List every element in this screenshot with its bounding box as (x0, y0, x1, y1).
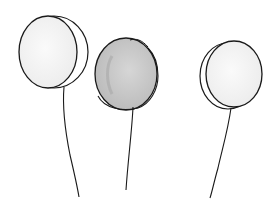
right-string (210, 108, 231, 198)
left-string (63, 87, 79, 197)
balloon-sketch (0, 0, 276, 202)
middle-balloon (95, 38, 158, 190)
left-balloon (19, 16, 88, 197)
middle-string (126, 107, 133, 190)
right-balloon (200, 41, 262, 198)
